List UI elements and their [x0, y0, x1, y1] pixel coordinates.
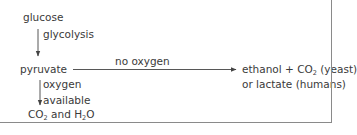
- frame-bottom-border: [0, 122, 332, 123]
- frame-right-border: [331, 0, 332, 123]
- glucose-node: glucose: [23, 11, 63, 23]
- no-oxygen-label: no oxygen: [115, 55, 170, 67]
- o-text: O: [86, 108, 94, 120]
- co-text: CO: [28, 108, 44, 120]
- and-h-text: and H: [48, 108, 82, 120]
- available-label: available: [43, 94, 90, 106]
- yeast-text: (yeast): [317, 63, 357, 75]
- pyruvate-node: pyruvate: [20, 63, 67, 75]
- glycolysis-label: glycolysis: [43, 28, 94, 40]
- oxygen-label: oxygen: [43, 78, 81, 90]
- fermentation-products-line1: ethanol + CO2 (yeast): [242, 63, 357, 79]
- ethanol-co2-text: ethanol + CO: [242, 63, 313, 75]
